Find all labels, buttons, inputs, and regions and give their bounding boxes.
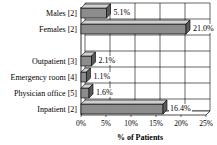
bar-chart: 5.1%21.0%2.1%1.1%1.6%16.4% Males [2]Fema…	[0, 0, 217, 145]
bar: 1.6%	[81, 84, 114, 98]
category-labels: Males [2]Females [2]Outpatient [3]Emerge…	[11, 9, 78, 114]
x-tick-label: 20%	[174, 119, 188, 128]
x-tick-label: 5%	[101, 119, 111, 128]
x-tick-label: 15%	[149, 119, 163, 128]
data-label: 16.4%	[170, 104, 191, 113]
category-label: Males [2]	[46, 9, 77, 18]
data-label: 1.6%	[96, 88, 113, 97]
category-label: Physician office [5]	[14, 89, 77, 98]
x-axis-label: % of Patients	[117, 133, 163, 142]
x-tick-label: 10%	[124, 119, 138, 128]
category-label: Females [2]	[39, 25, 77, 34]
category-label: Emergency room [4]	[11, 73, 78, 82]
data-label: 1.1%	[94, 72, 111, 81]
category-label: Outpatient [3]	[32, 57, 77, 66]
bar: 5.1%	[81, 4, 131, 18]
data-label: 5.1%	[114, 8, 131, 17]
bar: 16.4%	[81, 100, 192, 114]
category-label: Inpatient [2]	[37, 105, 77, 114]
bar: 21.0%	[81, 20, 215, 34]
data-label: 2.1%	[99, 56, 116, 65]
bar: 2.1%	[81, 52, 116, 66]
x-tick-label: 25%	[199, 119, 213, 128]
bars: 5.1%21.0%2.1%1.1%1.6%16.4%	[81, 4, 215, 114]
data-label: 21.0%	[193, 24, 214, 33]
x-tick-labels: 0%5%10%15%20%25%	[76, 119, 213, 128]
bar: 1.1%	[81, 68, 111, 82]
x-tick-label: 0%	[76, 119, 86, 128]
